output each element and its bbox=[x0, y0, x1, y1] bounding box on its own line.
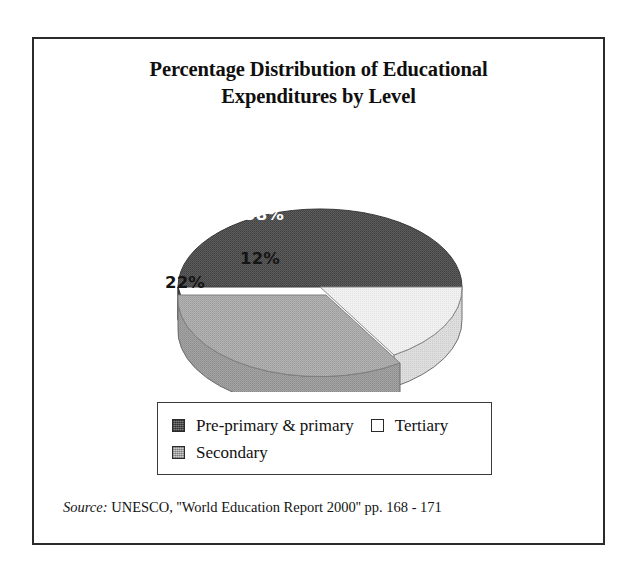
legend-item-secondary[interactable]: Secondary bbox=[172, 444, 268, 461]
white-swatch-icon bbox=[371, 419, 384, 432]
chart-legend: Pre-primary & primary Tertiary Secondary bbox=[157, 402, 492, 475]
dark-gray-swatch-icon bbox=[172, 419, 185, 432]
legend-label-tertiary: Tertiary bbox=[395, 417, 449, 434]
legend-row-2: Secondary bbox=[172, 439, 491, 466]
chart-title: Percentage Distribution of Educational E… bbox=[34, 56, 603, 109]
pie-chart-svg bbox=[34, 157, 607, 392]
figure-frame: Percentage Distribution of Educational E… bbox=[32, 37, 605, 545]
legend-item-tertiary[interactable]: Tertiary bbox=[371, 417, 449, 434]
chart-title-line-2: Expenditures by Level bbox=[34, 83, 603, 110]
legend-label-pre-primary-primary: Pre-primary & primary bbox=[196, 417, 354, 434]
pie-slice-primary-top bbox=[178, 209, 462, 287]
legend-row-1: Pre-primary & primary Tertiary bbox=[172, 412, 491, 439]
legend-label-secondary: Secondary bbox=[196, 444, 268, 461]
source-text: UNESCO, ''World Education Report 2000'' … bbox=[108, 499, 442, 515]
pie-chart: 58% 12% 22% bbox=[34, 157, 607, 392]
source-note: Source: UNESCO, ''World Education Report… bbox=[63, 498, 583, 516]
pie-label-tertiary: 12% bbox=[240, 249, 280, 268]
source-label: Source: bbox=[63, 499, 108, 515]
pie-label-secondary: 22% bbox=[165, 273, 205, 292]
chart-title-line-1: Percentage Distribution of Educational bbox=[34, 56, 603, 83]
medium-gray-swatch-icon bbox=[172, 446, 185, 459]
pie-label-primary: 58% bbox=[244, 205, 284, 224]
legend-item-pre-primary-primary[interactable]: Pre-primary & primary bbox=[172, 417, 354, 434]
